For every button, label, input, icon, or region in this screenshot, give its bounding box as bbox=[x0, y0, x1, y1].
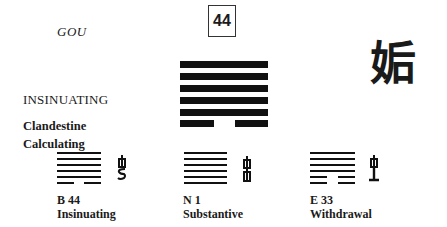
hexagram-name: INSINUATING bbox=[23, 92, 108, 108]
line bbox=[57, 158, 101, 160]
line bbox=[310, 158, 355, 160]
related-label-e33: Withdrawal bbox=[310, 207, 372, 221]
line bbox=[338, 176, 355, 178]
line-1-right bbox=[235, 120, 268, 127]
hexagram-number-box: 44 bbox=[208, 5, 236, 37]
line bbox=[184, 170, 227, 172]
line bbox=[57, 152, 101, 154]
line-6 bbox=[180, 61, 268, 68]
double-tower-glyph-icon bbox=[242, 156, 252, 183]
main-hexagram bbox=[180, 61, 268, 131]
line bbox=[310, 182, 327, 184]
line bbox=[310, 176, 327, 178]
fire-glyph-icon bbox=[117, 155, 127, 181]
keyword-1: Clandestine bbox=[23, 119, 86, 134]
line bbox=[84, 182, 101, 184]
tower-base-glyph-icon bbox=[368, 155, 380, 182]
line bbox=[184, 182, 227, 184]
line bbox=[310, 164, 355, 166]
line bbox=[57, 170, 101, 172]
hexagram-pinyin: GOU bbox=[57, 24, 87, 40]
line bbox=[338, 182, 355, 184]
line bbox=[57, 164, 101, 166]
related-hexagram-n1 bbox=[184, 152, 227, 184]
line-5 bbox=[180, 73, 268, 80]
line bbox=[184, 152, 227, 154]
line bbox=[184, 158, 227, 160]
related-code-n1: N 1 bbox=[183, 193, 201, 207]
line-1-left bbox=[180, 120, 214, 127]
line bbox=[310, 152, 355, 154]
line-2 bbox=[180, 109, 268, 116]
line bbox=[57, 182, 74, 184]
related-code-e33: E 33 bbox=[310, 193, 333, 207]
related-label-n1: Substantive bbox=[183, 207, 243, 221]
line-4 bbox=[180, 85, 268, 92]
line bbox=[57, 176, 101, 178]
related-hexagram-e33 bbox=[310, 152, 355, 184]
hexagram-character: 姤 bbox=[370, 40, 416, 86]
line-3 bbox=[180, 97, 268, 104]
line bbox=[184, 176, 227, 178]
line bbox=[184, 164, 227, 166]
related-label-b44: Insinuating bbox=[57, 207, 116, 221]
keyword-2: Calculating bbox=[23, 137, 85, 152]
related-code-b44: B 44 bbox=[57, 193, 80, 207]
related-hexagram-b44 bbox=[57, 152, 101, 184]
line bbox=[310, 170, 355, 172]
